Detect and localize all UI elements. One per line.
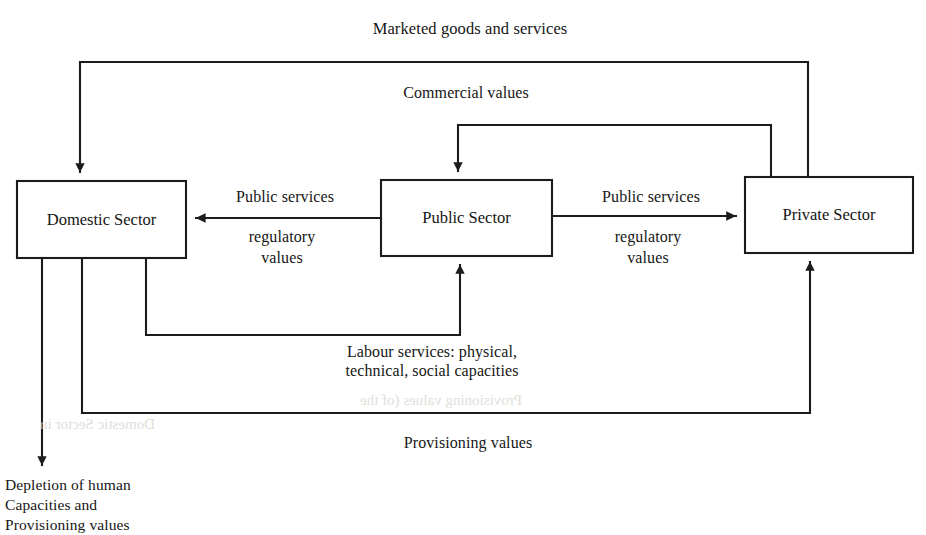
label-regulatory-values-right-line2: values [627, 249, 668, 268]
edge-labour-services [146, 258, 460, 335]
label-public-services-right: Public services [602, 188, 700, 207]
node-box-private [745, 177, 913, 253]
label-depletion-line1: Depletion of human [5, 476, 131, 494]
node-box-public [381, 180, 552, 256]
label-regulatory-values-left-line1: regulatory [249, 228, 316, 247]
label-regulatory-values-left-line2: values [261, 249, 302, 268]
label-commercial-values: Commercial values [403, 84, 529, 103]
sector-flow-diagram: Domestic Sector Public Sector Private Se… [0, 0, 926, 535]
flow-connector-canvas [0, 0, 926, 535]
label-marketed-goods-and-services: Marketed goods and services [373, 19, 568, 38]
label-labour-services-line1: Labour services: physical, [347, 343, 517, 362]
label-regulatory-values-right-line1: regulatory [615, 228, 682, 247]
label-depletion-line2: Capacities and [5, 496, 97, 514]
edge-marketed-goods-and-services [80, 62, 808, 177]
node-box-domestic [17, 181, 186, 258]
label-public-services-left: Public services [236, 188, 334, 207]
label-provisioning-values: Provisioning values [404, 434, 533, 453]
label-labour-services-line2: technical, social capacities [346, 362, 519, 381]
edge-commercial-values [458, 125, 771, 177]
label-depletion-line3: Provisioning values [5, 516, 130, 534]
